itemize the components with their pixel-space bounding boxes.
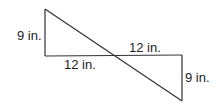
right-horizontal-label: 12 in. — [129, 41, 161, 54]
left-horizontal-label: 12 in. — [64, 58, 96, 71]
left-vertical-label: 9 in. — [17, 29, 42, 42]
triangles-figure — [0, 0, 221, 108]
right-vertical-label: 9 in. — [185, 71, 210, 84]
